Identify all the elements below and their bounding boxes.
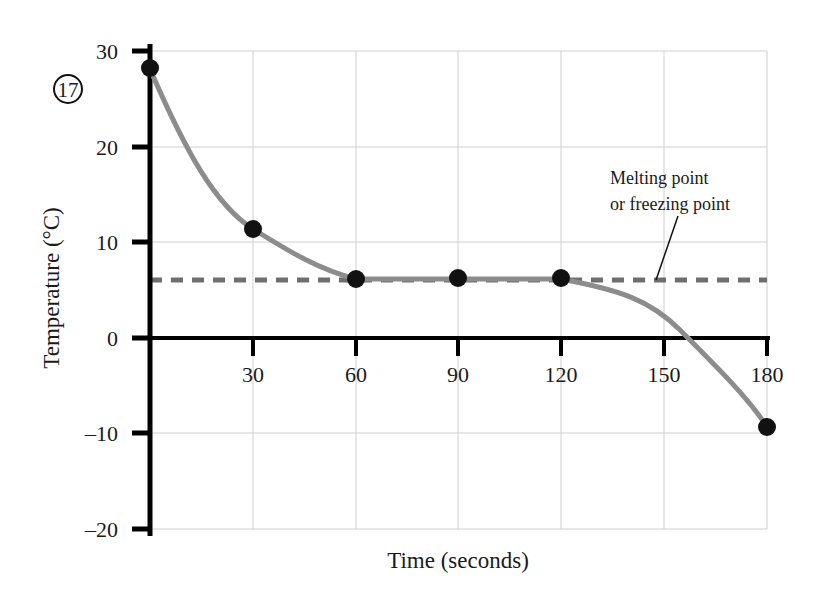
y-axis-title: Temperature (°C)	[39, 207, 64, 368]
y-tick-label: –20	[84, 517, 118, 542]
y-tick-label: 0	[107, 326, 118, 351]
grid	[150, 51, 767, 529]
data-point	[244, 220, 262, 238]
x-tick-label: 150	[648, 362, 681, 387]
y-tick-label: 30	[96, 39, 118, 64]
annotation-line-1: Melting point	[610, 168, 709, 188]
y-axis	[132, 44, 150, 536]
x-tick-label: 60	[345, 362, 367, 387]
data-point	[347, 270, 365, 288]
x-tick-label: 120	[545, 362, 578, 387]
y-tick-label: 10	[96, 230, 118, 255]
y-tick-label: 20	[96, 135, 118, 160]
data-point	[758, 418, 776, 436]
annotation-line-2: or freezing point	[610, 194, 730, 214]
x-tick-label: 180	[751, 362, 784, 387]
y-tick-labels: 30 20 10 0 –10 –20	[84, 39, 118, 542]
figure-number-badge: 17	[54, 75, 82, 103]
data-point	[449, 269, 467, 287]
data-point	[552, 269, 570, 287]
x-tick-label: 90	[447, 362, 469, 387]
chart-root: 30 20 10 0 –10 –20 30 60 90 120 150 180 …	[0, 0, 824, 607]
x-tick-labels: 30 60 90 120 150 180	[242, 362, 784, 387]
x-axis	[148, 338, 770, 356]
x-axis-title: Time (seconds)	[387, 548, 529, 573]
x-tick-label: 30	[242, 362, 264, 387]
y-tick-label: –10	[84, 421, 118, 446]
data-point	[141, 59, 159, 77]
figure-number: 17	[58, 78, 79, 102]
annotation-pointer	[656, 216, 678, 280]
